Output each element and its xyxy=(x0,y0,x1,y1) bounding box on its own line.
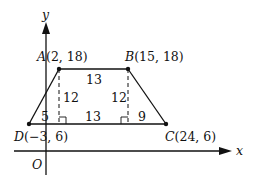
right-angle-mark-left xyxy=(59,117,66,124)
point-d xyxy=(27,122,31,126)
measure-top-base: 13 xyxy=(86,72,102,87)
measure-bottom-middle: 13 xyxy=(85,109,101,124)
label-d: D(−3, 6) xyxy=(13,129,68,144)
point-a xyxy=(57,67,61,71)
point-c xyxy=(164,122,168,126)
measure-bottom-right: 9 xyxy=(138,109,146,124)
label-b: B(15, 18) xyxy=(124,49,184,64)
measure-bottom-left: 5 xyxy=(41,109,49,124)
measure-right-height: 12 xyxy=(111,90,127,105)
side-bc xyxy=(128,69,166,124)
y-axis-label: y xyxy=(41,7,50,22)
label-c: C(24, 6) xyxy=(165,129,216,144)
point-b xyxy=(126,67,130,71)
x-axis-label: x xyxy=(236,143,243,158)
label-a: A(2, 18) xyxy=(36,49,88,64)
right-angle-mark-right xyxy=(121,117,128,124)
trapezoid-diagram: y x O A(2, 18) B(15, 18) C(24, 6) D(−3, … xyxy=(0,0,253,186)
measure-left-height: 12 xyxy=(63,90,79,105)
x-axis-arrow-icon xyxy=(219,147,232,155)
y-axis-arrow-icon xyxy=(42,22,50,34)
origin-label: O xyxy=(32,157,42,172)
